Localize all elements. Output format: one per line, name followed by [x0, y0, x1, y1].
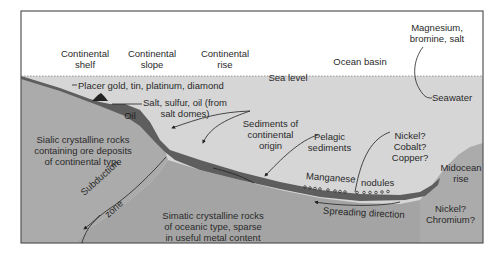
simatic-line3: in useful metal content [158, 232, 268, 243]
seawater-label: Seawater [432, 92, 472, 103]
magnesium-line2: bromine, salt [402, 33, 472, 44]
oil-label: Oil [120, 110, 140, 121]
sialic-line3: of continental type [28, 156, 138, 167]
ncc-line3: Copper? [385, 152, 435, 163]
sediments-line1: Sediments of [238, 118, 303, 129]
zone-ocean-basin: Ocean basin [325, 56, 395, 67]
sialic-rocks-label: Sialic crystalline rocks containing ore … [28, 134, 138, 167]
pelagic-line1: Pelagic [302, 131, 357, 142]
salt-label: Salt, sulfur, oil (from salt domes) [140, 97, 230, 119]
simatic-rocks-label: Simatic crystalline rocks of oceanic typ… [158, 210, 268, 243]
sediments-line2: continental [238, 129, 303, 140]
ncc-line2: Cobalt? [385, 141, 435, 152]
nodules-label: nodules [361, 177, 394, 188]
sialic-line2: containing ore deposits [28, 145, 138, 156]
midocean-line1: Midocean [436, 162, 486, 173]
simatic-line2: of oceanic type, sparse [158, 221, 268, 232]
sediments-continental-label: Sediments of continental origin [238, 118, 303, 151]
pelagic-label: Pelagic sediments [302, 131, 357, 153]
midocean-rise-label: Midocean rise [436, 162, 486, 184]
nc-line1: Nickel? [423, 203, 478, 214]
pelagic-line2: sediments [302, 142, 357, 153]
nickel-cobalt-copper-label: Nickel? Cobalt? Copper? [385, 130, 435, 163]
zone-slope-line2: slope [122, 59, 182, 70]
sediments-line3: origin [238, 140, 303, 151]
simatic-line1: Simatic crystalline rocks [158, 210, 268, 221]
zone-continental-rise: Continental rise [195, 48, 255, 70]
sialic-line1: Sialic crystalline rocks [28, 134, 138, 145]
zone-rise-line2: rise [195, 59, 255, 70]
ocean-resources-cross-section: Continental shelf Continental slope Cont… [0, 0, 502, 263]
magnesium-line1: Magnesium, [402, 22, 472, 33]
salt-line2: salt domes) [140, 108, 230, 119]
zone-shelf-line2: shelf [55, 59, 115, 70]
ncc-line1: Nickel? [385, 130, 435, 141]
nickel-chromium-label: Nickel? Chromium? [423, 203, 478, 225]
salt-line1: Salt, sulfur, oil (from [140, 97, 230, 108]
zone-shelf-line1: Continental [55, 48, 115, 59]
midocean-line2: rise [436, 173, 486, 184]
zone-slope-line1: Continental [122, 48, 182, 59]
zone-continental-shelf: Continental shelf [55, 48, 115, 70]
nc-line2: Chromium? [423, 214, 478, 225]
zone-rise-line1: Continental [195, 48, 255, 59]
magnesium-label: Magnesium, bromine, salt [402, 22, 472, 44]
sea-level-label: Sea level [268, 72, 308, 83]
zone-continental-slope: Continental slope [122, 48, 182, 70]
placer-label: Placer gold, tin, platinum, diamond [78, 80, 224, 91]
